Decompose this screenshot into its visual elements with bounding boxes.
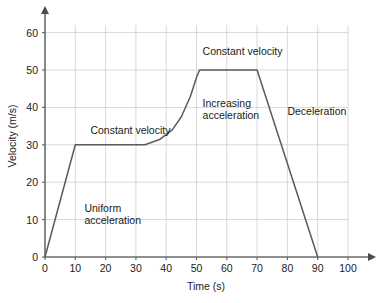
annotation-constant-velocity-2: Constant velocity [203,45,284,57]
y-tick-label: 0 [32,251,38,263]
velocity-series-line [45,70,318,257]
annotation-line: Deceleration [287,105,346,117]
x-tick-label: 100 [339,262,357,274]
x-tick-labels-group: 0102030405060708090100 [42,262,357,274]
x-tick-label: 20 [100,262,112,274]
annotation-line: Uniform [84,202,121,214]
chart-canvas: 0102030405060708090100 0102030405060 Uni… [0,0,382,303]
velocity-time-chart: 0102030405060708090100 0102030405060 Uni… [0,0,382,303]
y-tick-label: 20 [26,176,38,188]
x-tick-label: 70 [251,262,263,274]
annotation-line: Constant velocity [90,124,171,136]
x-axis-title: Time (s) [187,280,225,292]
annotations-group: UniformaccelerationConstant velocityIncr… [84,45,346,226]
y-tick-label: 30 [26,139,38,151]
x-tick-label: 50 [191,262,203,274]
x-tick-label: 30 [130,262,142,274]
x-tick-label: 80 [282,262,294,274]
y-axis-title: Velocity (m/s) [6,104,18,167]
y-axis-arrow-icon [41,6,49,14]
annotation-line: Increasing [203,97,252,109]
y-tick-label: 10 [26,214,38,226]
annotation-line: Constant velocity [203,45,284,57]
x-tick-label: 60 [221,262,233,274]
annotation-line: acceleration [203,109,260,121]
annotation-deceleration: Deceleration [287,105,346,117]
y-tick-label: 50 [26,64,38,76]
x-tick-label: 90 [312,262,324,274]
annotation-increasing-acceleration: Increasingacceleration [203,97,260,121]
y-tick-label: 40 [26,101,38,113]
annotation-uniform-acceleration: Uniformacceleration [84,202,141,226]
x-axis-arrow-icon [368,253,376,261]
y-tick-label: 60 [26,27,38,39]
y-tick-labels-group: 0102030405060 [26,27,38,263]
x-tick-label: 0 [42,262,48,274]
x-tick-label: 40 [160,262,172,274]
annotation-constant-velocity-1: Constant velocity [90,124,171,136]
x-tick-label: 10 [69,262,81,274]
annotation-line: acceleration [84,214,141,226]
